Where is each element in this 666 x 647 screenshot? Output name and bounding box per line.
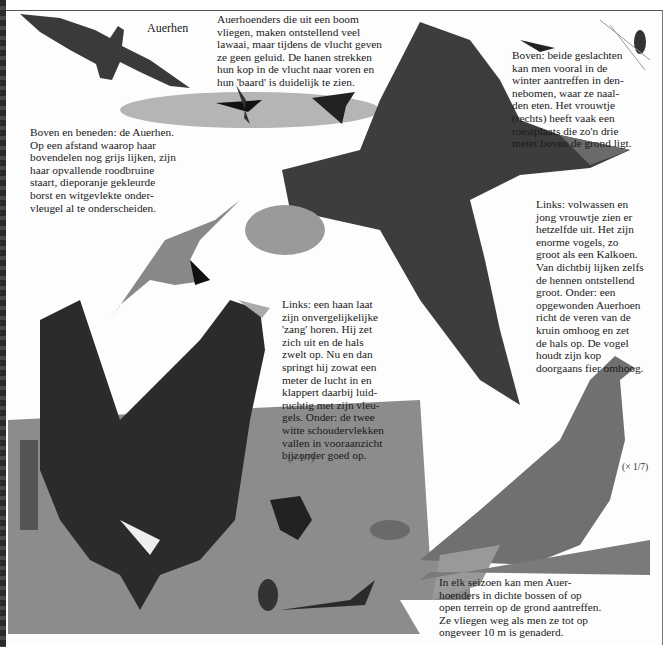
caption-male-song: Links: een haan laat zijn onvergelijkeli… <box>282 298 412 462</box>
caption-flight-noise: Auerhoenders die uit een boom vliegen, m… <box>217 13 457 89</box>
species-title: Auerhen <box>147 21 188 36</box>
scale-label-female: (× 1/7) <box>622 462 648 472</box>
caption-winter-pines: Boven: beide geslachten kan men vooral i… <box>512 49 662 150</box>
flying-cocks-illustration <box>120 85 380 128</box>
caption-all-seasons: In elk seizoen kan men Auer- hoenders in… <box>439 576 659 639</box>
standing-hen-illustration <box>420 356 650 600</box>
caption-above-below: Boven en beneden: de Auerhen. Op een afs… <box>30 126 230 214</box>
caption-female-size: Links: volwassen en jong vrouwtje zien e… <box>536 198 666 374</box>
scale-label-male: (× 1/7) <box>288 453 314 463</box>
